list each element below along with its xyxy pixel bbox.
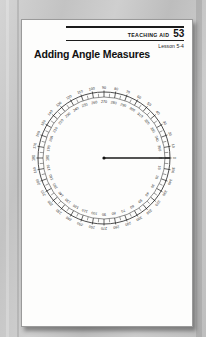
protractor-label-inner-scale-170: 170 <box>46 164 51 171</box>
protractor-label-inner-scale-190: 190 <box>46 145 51 152</box>
protractor-label-inner-scale-240: 240 <box>72 106 79 112</box>
protractor-minor-tick <box>130 213 131 216</box>
protractor-label-outer-scale-210: 210 <box>40 189 46 196</box>
desk-streak <box>196 0 202 337</box>
protractor-minor-tick <box>58 112 60 114</box>
protractor-label-outer-scale-270: 270 <box>101 226 107 230</box>
protractor-major-tick <box>61 106 65 111</box>
protractor-label-inner-scale-220: 220 <box>58 118 65 125</box>
protractor-label-outer-scale-20: 20 <box>167 131 172 136</box>
protractor-label-inner-scale-270: 270 <box>101 100 107 104</box>
protractor-minor-tick <box>154 193 157 195</box>
protractor-label-outer-scale-330: 330 <box>161 189 167 196</box>
protractor-minor-tick <box>163 141 166 142</box>
protractor-label-outer-scale-90: 90 <box>102 86 106 90</box>
protractor-label-outer-scale-310: 310 <box>145 208 152 215</box>
protractor-label-inner-scale-180: 180 <box>46 155 50 161</box>
header-rule-bottom <box>66 40 184 41</box>
protractor-label-outer-scale-170: 170 <box>33 143 38 150</box>
protractor-label-inner-scale-200: 200 <box>48 135 54 142</box>
page-header: TEACHING AID 53 Lesson 5-4 <box>64 26 184 49</box>
protractor-label-outer-scale-10: 10 <box>171 144 176 149</box>
protractor-label-inner-scale-300: 300 <box>128 106 135 112</box>
protractor-vertex-point <box>102 156 105 159</box>
protractor-label-outer-scale-260: 260 <box>89 224 96 229</box>
protractor-label-inner-scale-280: 280 <box>110 100 117 105</box>
protractor-label-outer-scale-80: 80 <box>114 87 119 92</box>
protractor-minor-tick <box>58 201 60 203</box>
protractor-label-outer-scale-250: 250 <box>77 221 84 227</box>
protractor-label-outer-scale-350: 350 <box>170 167 175 174</box>
protractor-label-outer-scale-220: 220 <box>47 199 54 206</box>
protractor-major-tick <box>143 205 147 210</box>
protractor-label-inner-scale-210: 210 <box>52 126 58 133</box>
protractor-minor-tick <box>154 121 157 123</box>
protractor-label-inner-scale-40: 40 <box>144 191 150 197</box>
protractor-label-inner-scale-250: 250 <box>81 102 88 108</box>
protractor-minor-tick <box>77 213 78 216</box>
protractor-minor-tick <box>51 193 54 195</box>
protractor-label-outer-scale-280: 280 <box>113 224 120 229</box>
protractor-minor-tick <box>147 201 149 203</box>
protractor-label-inner-scale-340: 340 <box>154 135 160 142</box>
protractor-minor-tick <box>120 96 121 99</box>
protractor-minor-tick <box>130 100 131 103</box>
protractor-label-inner-scale-30: 30 <box>150 183 155 188</box>
protractor-label-outer-scale-180: 180 <box>32 155 36 161</box>
protractor-label-outer-scale-70: 70 <box>125 90 130 95</box>
protractor-label-inner-scale-230: 230 <box>64 112 71 119</box>
protractor-major-tick <box>61 205 65 210</box>
protractor-minor-tick <box>42 174 45 175</box>
protractor-minor-tick <box>42 141 45 142</box>
protractor-label-inner-scale-100: 100 <box>91 211 98 216</box>
protractor-label-inner-scale-90: 90 <box>102 212 106 216</box>
protractor-minor-tick <box>46 184 49 185</box>
protractor-minor-tick <box>139 105 141 108</box>
protractor-label-inner-scale-350: 350 <box>157 145 162 152</box>
protractor-label-outer-scale-190: 190 <box>33 167 38 174</box>
protractor-minor-tick <box>159 184 162 185</box>
protractor-label-outer-scale-100: 100 <box>89 87 96 92</box>
protractor-label-outer-scale-30: 30 <box>162 120 167 125</box>
protractor-minor-tick <box>87 217 88 220</box>
protractor-minor-tick <box>87 96 88 99</box>
protractor-major-tick <box>143 106 147 111</box>
protractor-label-inner-scale-330: 330 <box>149 126 155 133</box>
protractor-label-inner-scale-10: 10 <box>157 165 162 170</box>
desk-streak <box>17 0 19 337</box>
protractor-major-tick <box>151 197 156 201</box>
header-rule-top <box>66 26 184 28</box>
protractor-minor-tick <box>159 131 162 132</box>
header-aid-line: TEACHING AID 53 <box>64 29 184 39</box>
protractor-label-outer-scale-230: 230 <box>55 208 62 215</box>
protractor-label-inner-scale-110: 110 <box>81 208 88 214</box>
protractor-minor-tick <box>67 105 69 108</box>
protractor-major-tick <box>52 197 57 201</box>
protractor-label-outer-scale-200: 200 <box>35 178 41 185</box>
protractor-label-inner-scale-50: 50 <box>137 198 143 204</box>
protractor-label-inner-scale-160: 160 <box>48 174 54 181</box>
protractor-label-inner-scale-290: 290 <box>120 102 127 108</box>
protractor-label-inner-scale-260: 260 <box>91 100 98 105</box>
protractor-minor-tick <box>139 208 141 211</box>
teaching-aid-number: 53 <box>173 29 184 39</box>
worksheet-page: TEACHING AID 53 Lesson 5-4 Adding Angle … <box>21 19 193 327</box>
protractor-major-tick <box>52 115 57 119</box>
protractor-minor-tick <box>77 100 78 103</box>
protractor-label-inner-scale-310: 310 <box>136 112 143 119</box>
protractor-label-outer-scale-150: 150 <box>40 119 46 126</box>
protractor-major-tick <box>151 115 156 119</box>
protractor-label-outer-scale-140: 140 <box>47 109 54 116</box>
protractor-label-outer-scale-300: 300 <box>135 215 142 221</box>
protractor-label-inner-scale-80: 80 <box>111 211 116 216</box>
protractor-label-outer-scale-340: 340 <box>167 178 173 185</box>
protractor-minor-tick <box>147 112 149 114</box>
protractor-minor-tick <box>67 208 69 211</box>
protractor-label-inner-scale-120: 120 <box>72 203 79 209</box>
protractor-minor-tick <box>46 131 49 132</box>
protractor-label-outer-scale-320: 320 <box>154 199 161 206</box>
protractor-label-outer-scale-60: 60 <box>136 95 141 100</box>
protractor-label-outer-scale-240: 240 <box>65 215 72 221</box>
protractor-label-inner-scale-320: 320 <box>143 118 150 125</box>
protractor-minor-tick <box>51 121 54 123</box>
